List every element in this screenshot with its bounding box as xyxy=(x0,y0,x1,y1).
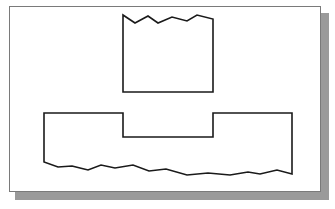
upper-block-with-break-line xyxy=(123,15,213,92)
drawing-canvas xyxy=(0,0,335,209)
lower-notched-base-with-break-line xyxy=(44,113,292,175)
